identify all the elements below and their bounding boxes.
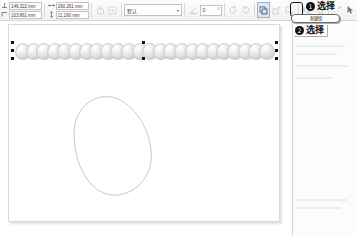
raise-icon[interactable]: [270, 2, 283, 18]
chevron-down-icon[interactable]: ▾: [177, 8, 179, 13]
selection-handle[interactable]: [11, 57, 14, 60]
angle-input[interactable]: 0 ⇳: [200, 5, 223, 16]
panel-placeholder-line: [297, 45, 345, 47]
transform-center-icon[interactable]: [106, 2, 119, 18]
egg-outline-shape[interactable]: [53, 87, 183, 207]
y-position-input[interactable]: 103.861 mm: [9, 11, 42, 19]
x-position-row: 146.322 mm: [1, 1, 42, 10]
selection-handle[interactable]: [11, 41, 14, 44]
editor-window: 146.322 mm 103.861 mm 260.261 mm: [0, 0, 357, 235]
y-position-row: 103.861 mm: [1, 10, 42, 19]
width-row: 260.261 mm: [48, 1, 89, 10]
toolbar-separator-5: [224, 3, 225, 17]
toolbar-separator-2: [91, 3, 92, 17]
x-position-input[interactable]: 146.322 mm: [9, 2, 42, 10]
toolbar-separator-6: [254, 3, 255, 17]
panel-placeholder-line: [297, 77, 331, 79]
panel-placeholder-line: [297, 65, 349, 67]
panel-placeholder-line: [297, 199, 347, 201]
size-group: 260.261 mm 11.190 mm: [47, 0, 89, 21]
selection-handle[interactable]: [11, 49, 14, 52]
selection-handle[interactable]: [275, 57, 278, 60]
selection-arrow-icon[interactable]: [344, 2, 357, 18]
panel-placeholder-line: [297, 53, 337, 55]
style-combo[interactable]: 默认 ▾: [124, 4, 182, 16]
toolbar-separator-4: [184, 3, 185, 17]
panel-placeholder-line: [297, 207, 341, 209]
rotate-right-icon[interactable]: [240, 2, 253, 18]
sphere-row-group[interactable]: [15, 40, 277, 62]
drawing-page[interactable]: [8, 24, 280, 222]
lock-ratio-icon[interactable]: [94, 2, 107, 18]
toolbar-separator-1: [44, 3, 45, 17]
annotation-bullet-2: 2: [295, 26, 304, 35]
height-input[interactable]: 11.190 mm: [56, 11, 89, 19]
position-group: 146.322 mm 103.861 mm: [0, 0, 42, 21]
toolbar-separator-3: [121, 3, 122, 17]
properties-panel[interactable]: [292, 21, 357, 235]
width-arrow-icon: [48, 2, 55, 9]
height-row: 11.190 mm: [48, 10, 89, 19]
rotate-left-icon[interactable]: [227, 2, 240, 18]
width-input[interactable]: 260.261 mm: [56, 2, 89, 10]
tool-dropdown-item[interactable]: 新建组: [291, 14, 340, 23]
annotation-callout-2: 2 选择: [293, 24, 327, 36]
tool-dropdown-label: 新建组: [310, 15, 322, 21]
style-combo-value: 默认: [127, 7, 137, 14]
angle-icon: [187, 2, 200, 18]
size-fields: 260.261 mm 11.190 mm: [48, 0, 89, 20]
annotation-bullet-1: 1: [306, 2, 315, 11]
height-arrow-icon: [48, 11, 55, 18]
annotation-label-2: 选择: [306, 25, 324, 35]
angle-value: 0: [203, 7, 206, 13]
egg-outline-path: [53, 87, 183, 207]
selection-handle[interactable]: [275, 49, 278, 52]
sphere-shape[interactable]: [259, 43, 275, 60]
position-fields: 146.322 mm 103.861 mm: [1, 0, 42, 20]
selection-handle[interactable]: [275, 41, 278, 44]
selection-handle[interactable]: [142, 57, 145, 60]
annotation-callout-1: 1 选择: [305, 1, 337, 11]
selection-handle[interactable]: [142, 41, 145, 44]
spinner-arrows-icon[interactable]: ⇳: [217, 6, 220, 11]
y-coordinate-icon: [1, 11, 8, 18]
drawing-canvas[interactable]: [0, 21, 292, 235]
raise-to-top-icon[interactable]: [257, 2, 270, 18]
annotation-label-1: 选择: [317, 1, 335, 11]
x-coordinate-icon: [1, 2, 8, 9]
